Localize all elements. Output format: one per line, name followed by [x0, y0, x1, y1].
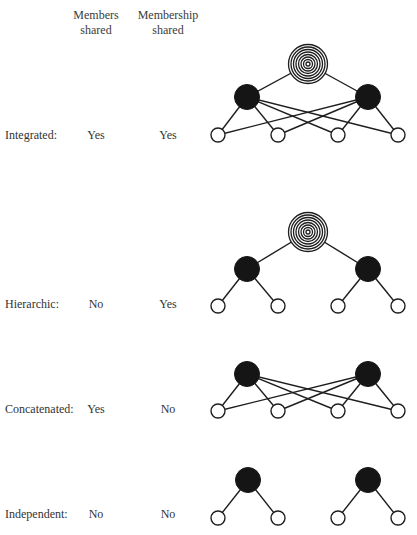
- white-member-node-icon: [271, 128, 285, 142]
- white-member-node-icon: [391, 128, 405, 142]
- concentric-organization-node-icon: [289, 45, 328, 84]
- black-group-node-icon: [356, 257, 381, 282]
- white-member-node-icon: [271, 404, 285, 418]
- black-group-node-icon: [356, 468, 381, 493]
- black-group-node-icon: [235, 85, 260, 110]
- white-member-node-icon: [211, 128, 225, 142]
- white-member-node-icon: [391, 404, 405, 418]
- white-member-node-icon: [271, 299, 285, 313]
- diagram-hierarchic: [211, 213, 405, 314]
- white-member-node-icon: [211, 299, 225, 313]
- concentric-organization-node-icon: [289, 213, 328, 252]
- white-member-node-icon: [391, 299, 405, 313]
- black-group-node-icon: [356, 362, 381, 387]
- white-member-node-icon: [331, 128, 345, 142]
- diagram-integrated: [211, 45, 405, 143]
- white-member-node-icon: [211, 511, 225, 525]
- white-member-node-icon: [211, 404, 225, 418]
- black-group-node-icon: [236, 468, 261, 493]
- network-diagrams: [0, 0, 417, 535]
- white-member-node-icon: [391, 511, 405, 525]
- diagram-concatenated: [211, 362, 405, 419]
- white-member-node-icon: [271, 511, 285, 525]
- black-group-node-icon: [235, 257, 260, 282]
- white-member-node-icon: [331, 299, 345, 313]
- black-group-node-icon: [235, 362, 260, 387]
- white-member-node-icon: [331, 404, 345, 418]
- black-group-node-icon: [356, 85, 381, 110]
- white-member-node-icon: [331, 511, 345, 525]
- diagram-independent: [211, 468, 405, 526]
